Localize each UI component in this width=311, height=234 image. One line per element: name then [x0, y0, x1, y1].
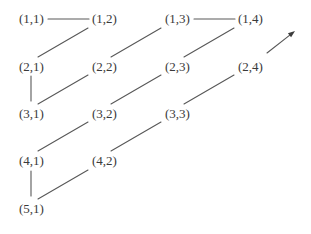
node-label-2-1: (2,1) [18, 60, 45, 74]
edge-22-13 [111, 28, 161, 57]
node-label-1-3: (1,3) [164, 12, 191, 26]
node-label-4-2: (4,2) [91, 154, 118, 168]
node-label-2-2: (2,2) [91, 60, 118, 74]
node-label-1-4: (1,4) [237, 12, 264, 26]
node-label-1-2: (1,2) [91, 12, 118, 26]
node-label-5-1: (5,1) [18, 202, 45, 216]
node-label-3-1: (3,1) [18, 107, 45, 121]
node-label-3-2: (3,2) [91, 107, 118, 121]
edge-23-14 [184, 28, 234, 57]
node-label-1-1: (1,1) [18, 12, 45, 26]
edges-group [31, 19, 235, 199]
edge-42-33 [111, 122, 161, 151]
edge-32-23 [111, 75, 161, 104]
lattice-edges-layer [0, 0, 311, 234]
node-label-2-3: (2,3) [164, 60, 191, 74]
edge-51-42 [38, 170, 88, 199]
continuation-arrow-shaft [267, 34, 291, 53]
edge-21-12 [38, 28, 88, 57]
edge-41-32 [38, 122, 88, 151]
node-label-2-4: (2,4) [237, 60, 264, 74]
node-label-3-3: (3,3) [164, 107, 191, 121]
pair-enumeration-diagram: (1,1)(1,2)(1,3)(1,4)(2,1)(2,2)(2,3)(2,4)… [0, 0, 311, 234]
edge-31-22 [38, 75, 88, 104]
edge-33-24 [184, 75, 234, 104]
continuation-arrow-group [267, 31, 295, 53]
node-label-4-1: (4,1) [18, 154, 45, 168]
